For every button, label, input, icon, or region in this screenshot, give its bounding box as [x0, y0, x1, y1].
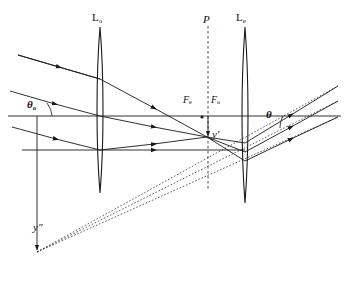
focus-eyepiece-label: Fe — [183, 95, 192, 106]
ray-diagram-canvas — [0, 0, 349, 290]
image-height-label: y′ — [212, 129, 219, 140]
objective-lens-label: Lo — [92, 12, 102, 24]
incident-rays — [10, 55, 100, 150]
angle-theta-o-label: θo — [27, 99, 36, 111]
converging-rays — [100, 79, 207, 150]
eyepiece-lens — [242, 27, 248, 203]
optics-ray-diagram-figure: Lo Le P Fe Fo θo θ y′ y″ — [0, 0, 349, 290]
objective-lens — [97, 27, 103, 193]
focal-point-marker — [200, 115, 203, 118]
eyepiece-lens-label: Le — [236, 12, 246, 24]
angle-theta-label: θ — [266, 109, 272, 120]
virtual-image-height-label: y″ — [33, 222, 42, 233]
focal-plane-label: P — [203, 14, 210, 25]
angle-theta-arc — [280, 116, 283, 128]
angle-theta-o-arc — [47, 103, 52, 116]
exit-rays — [245, 86, 338, 161]
focus-objective-label: Fo — [211, 95, 220, 106]
